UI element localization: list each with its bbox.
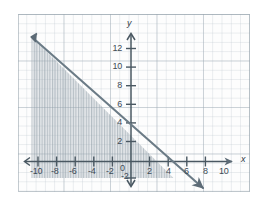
x-tick-label-neg4: -4 <box>88 166 96 176</box>
graph-figure: 12 10 8 6 4 2 -2 0 -10 -8 -6 -4 -2 2 4 6… <box>0 0 263 203</box>
x-axis-label: x <box>241 154 245 164</box>
x-tick-label-neg8: -8 <box>51 166 59 176</box>
x-tick-label-4: 4 <box>166 166 171 176</box>
origin-label: 0 <box>120 163 125 173</box>
x-tick-label-6: 6 <box>184 166 189 176</box>
x-tick-label-10: 10 <box>219 166 229 176</box>
x-tick-label-2: 2 <box>147 166 152 176</box>
y-tick-label-2: 2 <box>108 136 122 146</box>
y-tick-label-12: 12 <box>106 43 122 53</box>
y-tick-label-4: 4 <box>108 117 122 127</box>
y-tick-label-10: 10 <box>106 61 122 71</box>
x-tick-label-neg6: -6 <box>69 166 77 176</box>
x-tick-label-neg2: -2 <box>106 166 114 176</box>
shaded-region <box>32 37 174 179</box>
y-tick-label-8: 8 <box>108 80 122 90</box>
x-tick-label-neg10: -10 <box>30 166 42 176</box>
x-tick-label-8: 8 <box>203 166 208 176</box>
y-axis-label: y <box>127 18 131 28</box>
y-tick-label-6: 6 <box>108 99 122 109</box>
